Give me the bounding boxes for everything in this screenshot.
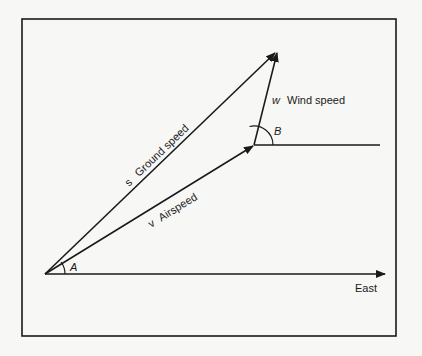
- angle-a-label: A: [69, 261, 77, 273]
- ground-speed-symbol: s: [122, 176, 135, 189]
- angle-arc-b: [250, 126, 274, 145]
- ground-speed-vector: [45, 53, 275, 274]
- east-label: East: [355, 282, 377, 294]
- airspeed-symbol: v: [146, 216, 157, 229]
- ground-speed-label: s Ground speed: [122, 122, 191, 189]
- angle-b-label: B: [274, 125, 281, 137]
- wind-speed-symbol: w: [272, 94, 281, 106]
- wind-triangle-diagram: A B s Ground speed v Airspeed w Wind spe…: [0, 0, 422, 356]
- airspeed-text: Airspeed: [156, 190, 199, 223]
- wind-speed-text: Wind speed: [287, 94, 345, 106]
- figure-border: [22, 19, 396, 336]
- ground-speed-text: Ground speed: [132, 122, 191, 179]
